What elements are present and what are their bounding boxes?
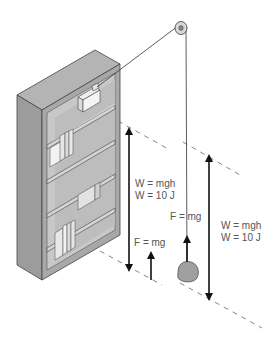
bottom-dashed-line-left (100, 251, 162, 285)
work-label-left-line2: W = 10 J (135, 190, 175, 201)
work-label-right-line1: W = mgh (221, 220, 261, 231)
work-label-left-line1: W = mgh (135, 178, 175, 189)
rope-to-box (97, 26, 178, 87)
rock (178, 261, 199, 281)
rope-to-rock (186, 30, 187, 262)
work-label-right-line2: W = 10 J (221, 232, 261, 243)
top-dashed-line-right (183, 142, 240, 175)
pulley-icon (175, 22, 187, 35)
work-energy-diagram (0, 0, 278, 344)
force-label-box: F = mg (134, 237, 165, 248)
bottom-dashed-line-right (180, 283, 262, 328)
bookcase (17, 50, 120, 280)
top-dashed-line-left (118, 121, 170, 150)
force-label-rock: F = mg (170, 211, 201, 222)
